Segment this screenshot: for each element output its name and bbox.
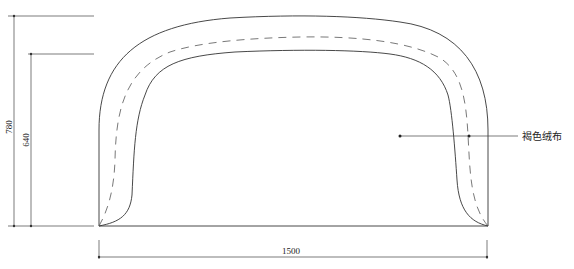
inner-outline: [99, 50, 488, 226]
dim-tick: [30, 53, 32, 55]
dim-640-label: 640: [21, 133, 31, 147]
outer-outline: [99, 16, 488, 226]
drawing-canvas: 780 640 1500 褐色绒布: [0, 0, 574, 269]
dim-tick: [98, 256, 100, 258]
dim-tick: [30, 225, 32, 227]
seam-dashed-line: [99, 37, 488, 226]
dim-tick: [486, 256, 488, 258]
dim-tick: [13, 225, 15, 227]
callout-label: 褐色绒布: [522, 130, 562, 142]
dim-1500-label: 1500: [282, 246, 301, 256]
dim-tick: [13, 15, 15, 17]
callout-dot: [468, 135, 471, 138]
dim-780-label: 780: [4, 120, 14, 134]
callout-dot: [399, 135, 402, 138]
